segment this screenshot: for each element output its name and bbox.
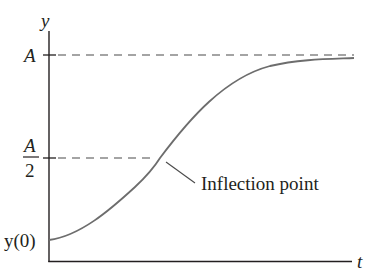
logistic-growth-diagram: y t A A 2 y(0) Inflection point xyxy=(0,0,366,277)
y0-label: y(0) xyxy=(4,230,36,252)
t-axis-label: t xyxy=(357,251,363,272)
y-axis-label: y xyxy=(39,10,50,31)
half-A-numerator: A xyxy=(22,135,36,156)
inflection-leader-line xyxy=(166,162,195,183)
logistic-curve xyxy=(49,58,354,240)
inflection-point-label: Inflection point xyxy=(201,173,319,194)
half-A-denominator: 2 xyxy=(25,160,35,181)
A-label: A xyxy=(22,45,36,66)
